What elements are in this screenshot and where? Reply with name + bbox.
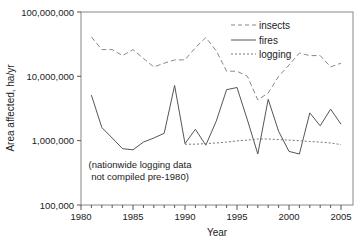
- legend: insects fires logging: [231, 20, 291, 60]
- chart: 100,000,000 10,000,000 1,000,000 100,000…: [0, 0, 361, 245]
- series-insects: [91, 37, 341, 100]
- y-tick-label: 100,000: [40, 200, 74, 211]
- x-tick-label: 1980: [70, 211, 91, 222]
- x-ticks: [81, 205, 341, 210]
- x-axis-label: Year: [207, 227, 228, 238]
- y-axis-label: Area affected, ha/yr: [5, 64, 16, 152]
- legend-label-insects: insects: [259, 20, 290, 31]
- x-tick-label: 1985: [122, 211, 143, 222]
- annotation-line-2: not compiled pre-1980): [91, 171, 189, 182]
- x-tick-label: 2005: [330, 211, 351, 222]
- annotation-line-1: (nationwide logging data: [89, 159, 193, 170]
- legend-label-fires: fires: [259, 35, 278, 46]
- y-ticks: [77, 12, 81, 205]
- y-tick-label: 100,000,000: [21, 7, 74, 18]
- y-tick-label: 10,000,000: [26, 71, 74, 82]
- y-tick-label: 1,000,000: [32, 135, 74, 146]
- series-fires: [91, 86, 341, 155]
- x-tick-label: 2000: [278, 211, 299, 222]
- legend-label-logging: logging: [259, 49, 291, 60]
- x-tick-label: 1990: [174, 211, 195, 222]
- x-tick-label: 1995: [226, 211, 247, 222]
